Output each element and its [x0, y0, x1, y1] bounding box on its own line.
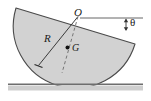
centroid-dot-icon [66, 46, 70, 50]
label-centroid-G: G [72, 43, 79, 53]
semicircle-figure: O R G θ [0, 0, 151, 101]
label-angle-theta: θ [130, 17, 135, 28]
ground-band [8, 86, 143, 91]
label-center-O: O [74, 7, 82, 18]
label-radius-R: R [44, 33, 51, 44]
double-arrow-icon [124, 18, 128, 31]
